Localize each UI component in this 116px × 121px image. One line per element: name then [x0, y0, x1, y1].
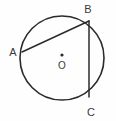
center-label-o: O	[58, 60, 66, 71]
vertex-label-a: A	[9, 46, 17, 58]
center-point-dot	[60, 53, 63, 56]
chord-ab	[22, 21, 89, 52]
vertex-label-b: B	[84, 3, 91, 15]
geometry-canvas: O A B C	[0, 0, 116, 121]
vertex-label-c: C	[87, 106, 95, 118]
circle-outline	[20, 16, 104, 100]
circle-geometry-diagram: O A B C	[0, 0, 116, 121]
